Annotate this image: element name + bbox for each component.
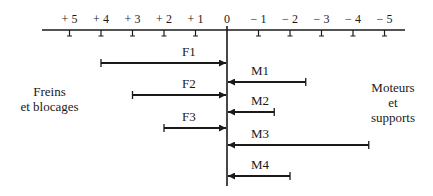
- left-group-label: Freins et blocages: [2, 84, 97, 114]
- tick-label: − 1: [251, 13, 267, 25]
- arrow-label-m4: M4: [251, 157, 269, 172]
- arrow-label-m2: M2: [251, 93, 269, 108]
- arrow-label-f1: F1: [182, 44, 196, 59]
- tick-label: − 2: [282, 13, 298, 25]
- tick-label: − 5: [377, 13, 393, 25]
- arrow-label-m1: M1: [251, 63, 269, 78]
- tick-label: + 5: [62, 13, 78, 25]
- arrow-label-f2: F2: [182, 76, 196, 91]
- tick-label: − 3: [314, 13, 330, 25]
- arrow-label-f3: F3: [182, 109, 196, 124]
- right-group-line3: supports: [355, 110, 431, 125]
- left-group-line1: Freins: [2, 84, 97, 99]
- right-group-line2: et: [355, 95, 431, 110]
- force-arrows: [101, 59, 369, 180]
- tick-label: + 3: [125, 13, 141, 25]
- tick-label: + 2: [156, 13, 172, 25]
- right-group-line1: Moteurs: [355, 80, 431, 95]
- arrow-label-m3: M3: [251, 126, 269, 141]
- tick-label: − 4: [345, 13, 361, 25]
- tick-label: + 4: [93, 13, 109, 25]
- force-balance-diagram: + 5+ 4+ 3+ 2+ 10− 1− 2− 3− 4− 5 Freins e…: [0, 0, 433, 196]
- tick-label: + 1: [188, 13, 204, 25]
- right-group-label: Moteurs et supports: [355, 80, 431, 125]
- left-group-line2: et blocages: [2, 99, 97, 114]
- tick-label: 0: [224, 13, 230, 25]
